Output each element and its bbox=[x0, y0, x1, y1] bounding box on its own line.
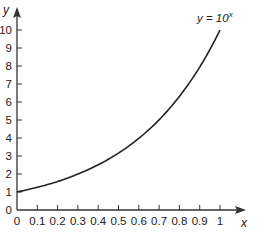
y-tick-label: 6 bbox=[6, 96, 12, 108]
series-line bbox=[17, 30, 220, 192]
x-tick-label: 1 bbox=[217, 215, 223, 227]
y-axis-label: y bbox=[2, 3, 10, 17]
x-tick-label: 0.4 bbox=[90, 215, 107, 227]
x-tick-label: 0.5 bbox=[111, 215, 127, 227]
x-axis-label: x bbox=[240, 216, 248, 230]
x-tick-label: 0.7 bbox=[151, 215, 167, 227]
x-tick-label: 0.2 bbox=[50, 215, 66, 227]
x-tick-label: 0.8 bbox=[171, 215, 187, 227]
y-tick-label: 8 bbox=[6, 60, 12, 72]
y-tick-label: 5 bbox=[6, 114, 12, 126]
x-ticks: 00.10.20.30.40.50.60.70.80.91 bbox=[14, 205, 223, 227]
y-ticks: 012345678910 bbox=[0, 24, 22, 216]
x-tick-label: 0 bbox=[14, 215, 20, 227]
y-tick-label: 10 bbox=[0, 24, 12, 36]
y-tick-label: 9 bbox=[6, 42, 12, 54]
y-tick-label: 4 bbox=[6, 132, 13, 144]
y-tick-label: 1 bbox=[6, 186, 12, 198]
curve-annotation: y = 10x bbox=[196, 10, 234, 24]
x-tick-label: 0.1 bbox=[29, 215, 45, 227]
x-tick-label: 0.6 bbox=[131, 215, 147, 227]
axes bbox=[13, 7, 246, 214]
x-tick-label: 0.3 bbox=[70, 215, 86, 227]
y-tick-label: 3 bbox=[6, 150, 12, 162]
chart-plot: 00.10.20.30.40.50.60.70.80.91 0123456789… bbox=[0, 0, 258, 235]
y-tick-label: 0 bbox=[6, 204, 12, 216]
y-tick-label: 2 bbox=[6, 168, 12, 180]
y-tick-label: 7 bbox=[6, 78, 12, 90]
x-tick-label: 0.9 bbox=[192, 215, 208, 227]
